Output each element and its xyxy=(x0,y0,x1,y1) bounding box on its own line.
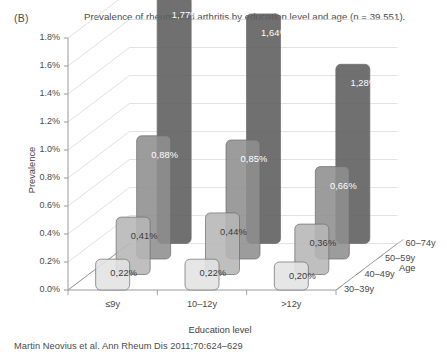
bar-value-label: 0,36% xyxy=(299,238,347,248)
y-axis-tick: 1.0% xyxy=(20,144,60,154)
y-axis-tick: 1.8% xyxy=(20,32,60,42)
y-axis-tick: 0.4% xyxy=(20,228,60,238)
bar-value-label: 0,66% xyxy=(319,181,367,191)
figure-panel: (B) Prevalence of rheumatoid arthritis b… xyxy=(0,0,447,360)
bar-value-label: 0,22% xyxy=(100,268,148,278)
z-axis-tick-4049y: 40–49y xyxy=(365,269,395,279)
bar-value-label: 0,44% xyxy=(210,227,258,237)
bar-value-label: 1,77% xyxy=(161,10,209,20)
x-axis-tick: 10–12y xyxy=(167,299,237,309)
bar-value-label: 0,85% xyxy=(230,154,278,164)
bar-value-label: 0,22% xyxy=(189,268,237,278)
x-axis-tick: ≤9y xyxy=(78,299,148,309)
bar-value-label: 1,64% xyxy=(251,28,299,38)
x-axis-tick: >12y xyxy=(256,299,326,309)
y-axis-tick: 1.4% xyxy=(20,88,60,98)
y-axis-tick: 1.6% xyxy=(20,60,60,70)
y-axis-tick: 1.2% xyxy=(20,116,60,126)
z-axis-tick-6074y: 60–74y xyxy=(406,238,436,248)
z-axis-title: Age xyxy=(399,263,416,273)
y-axis-tick: 0.6% xyxy=(20,200,60,210)
z-axis-tick-3039y: 30–39y xyxy=(344,284,374,294)
bar-value-label: 0,88% xyxy=(141,150,189,160)
y-axis-tick: 0.0% xyxy=(20,284,60,294)
y-axis-tick: 0.2% xyxy=(20,256,60,266)
bar-value-label: 1,28% xyxy=(340,78,388,88)
figure-citation: Martin Neovius et al. Ann Rheum Dis 2011… xyxy=(14,341,243,351)
bar-value-label: 0,41% xyxy=(120,231,168,241)
x-axis-title: Education level xyxy=(140,325,300,335)
z-axis-tick-5059y: 50–59y xyxy=(385,253,415,263)
y-axis-tick: 0.8% xyxy=(20,172,60,182)
bar-value-label: 0,20% xyxy=(278,271,326,281)
